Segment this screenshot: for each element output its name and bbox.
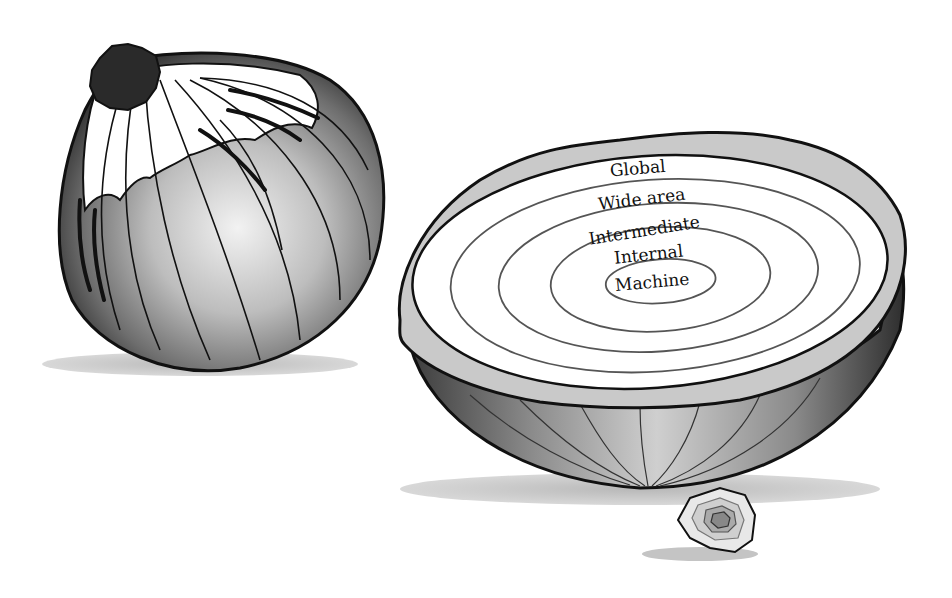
onion-diagram: Global Wide area Intermediate Internal M… — [0, 0, 952, 598]
whole-onion — [42, 44, 384, 376]
half-onion: Global Wide area Intermediate Internal M… — [399, 132, 905, 561]
